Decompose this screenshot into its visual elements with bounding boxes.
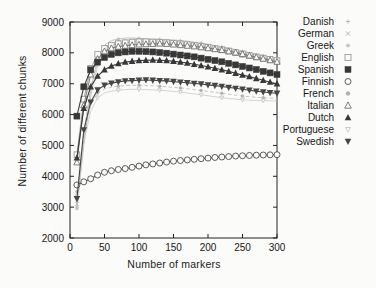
legend-label: English — [262, 52, 334, 63]
y-axis-title: Number of different chunks — [16, 55, 28, 186]
legend-item-english: English — [262, 51, 356, 63]
legend-marker-plus-icon — [340, 16, 356, 27]
y-tick-label: 5000 — [42, 140, 65, 151]
series-danish — [75, 37, 277, 209]
legend-item-dutch: Dutch — [262, 111, 356, 123]
x-tick-label: 150 — [165, 242, 182, 253]
x-axis-title: Number of markers — [127, 258, 220, 270]
series-portuguese — [75, 88, 277, 199]
legend-marker-circle-open-icon — [340, 76, 356, 87]
legend: DanishGermanGreekEnglishSpanishFinnishFr… — [262, 15, 356, 147]
y-tick-label: 3000 — [42, 202, 65, 213]
legend-label: Spanish — [262, 64, 334, 75]
x-tick-label: 50 — [99, 242, 111, 253]
y-tick-label: 7000 — [42, 78, 65, 89]
legend-item-portuguese: Portuguese — [262, 123, 356, 135]
legend-label: French — [262, 88, 334, 99]
legend-label: Portuguese — [262, 124, 334, 135]
y-tick-label: 8000 — [42, 47, 65, 58]
legend-item-finnish: Finnish — [262, 75, 356, 87]
legend-marker-triangle-down-filled-icon — [340, 136, 356, 147]
legend-marker-circle-filled-icon — [340, 88, 356, 99]
legend-marker-triangle-down-open-icon — [340, 124, 356, 135]
figure: 2000300040005000600070008000900005010015… — [0, 0, 376, 288]
legend-item-danish: Danish — [262, 15, 356, 27]
legend-label: Dutch — [262, 112, 334, 123]
legend-label: German — [262, 28, 334, 39]
legend-marker-square-open-icon — [340, 52, 356, 63]
legend-marker-triangle-open-icon — [340, 100, 356, 111]
series-line-finnish — [77, 155, 277, 185]
series-line-danish — [77, 38, 277, 207]
series-line-dutch — [77, 60, 277, 158]
legend-item-spanish: Spanish — [262, 63, 356, 75]
legend-marker-asterisk-icon — [340, 40, 356, 51]
series-line-french — [77, 85, 277, 191]
series-finnish — [74, 152, 280, 188]
y-tick-label: 4000 — [42, 171, 65, 182]
x-tick-label: 100 — [131, 242, 148, 253]
x-tick-label: 0 — [67, 242, 73, 253]
x-tick-label: 200 — [200, 242, 217, 253]
y-tick-label: 9000 — [42, 17, 65, 28]
legend-marker-cross-icon — [340, 28, 356, 39]
legend-item-german: German — [262, 27, 356, 39]
legend-label: Danish — [262, 16, 334, 27]
legend-label: Greek — [262, 40, 334, 51]
legend-item-swedish: Swedish — [262, 135, 356, 147]
series-line-portuguese — [77, 89, 277, 196]
series-line-german — [77, 40, 277, 205]
x-tick-label: 250 — [234, 242, 251, 253]
legend-marker-triangle-filled-icon — [340, 112, 356, 123]
y-tick-label: 6000 — [42, 109, 65, 120]
series-swedish — [74, 77, 281, 202]
legend-label: Finnish — [262, 76, 334, 87]
legend-item-italian: Italian — [262, 99, 356, 111]
y-tick-label: 2000 — [42, 233, 65, 244]
legend-label: Swedish — [262, 136, 334, 147]
legend-label: Italian — [262, 100, 334, 111]
series-line-swedish — [77, 80, 277, 199]
x-tick-label: 300 — [269, 242, 286, 253]
legend-item-french: French — [262, 87, 356, 99]
legend-item-greek: Greek — [262, 39, 356, 51]
legend-marker-square-filled-icon — [340, 64, 356, 75]
series-dutch — [74, 56, 281, 160]
